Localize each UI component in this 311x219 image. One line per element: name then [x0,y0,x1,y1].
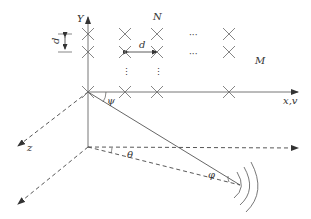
phi-angle-arc [228,176,229,182]
psi-angle-label: ψ [107,95,115,106]
x-axis-label: x,v [283,95,298,106]
z-axis-label: z [26,142,33,153]
psi-angle-arc [103,92,106,102]
cols-count-label: M [254,55,266,66]
antenna-element-icon [119,28,131,40]
antenna-element-icon [151,28,163,40]
wavefront-icon [234,162,258,212]
diagram-canvas: Y x,v z N M d d ψ θ φ ··· ··· ⋮ ⋮ [0,0,311,219]
column-ellipsis: ⋮ [122,67,131,77]
antenna-array-diagram: Y x,v z N M d d ψ θ φ ··· ··· ⋮ ⋮ [0,0,311,219]
antenna-element-icon [223,28,235,40]
horizontal-spacing-label: d [139,39,145,50]
rows-count-label: N [152,11,163,22]
column-ellipsis: ⋮ [154,67,163,77]
row-ellipsis: ··· [189,30,198,40]
z-axis-dashed [18,92,88,146]
array-elements [82,28,235,98]
vertical-spacing-label: d [50,38,61,44]
row-ellipsis: ··· [189,49,198,59]
theta-angle-label: θ [127,149,133,160]
ground-plane-axes [18,147,298,204]
y-axis-label: Y [77,13,85,24]
theta-angle-arc [111,148,112,153]
phi-angle-label: φ [208,169,215,180]
antenna-element-icon [223,46,235,58]
